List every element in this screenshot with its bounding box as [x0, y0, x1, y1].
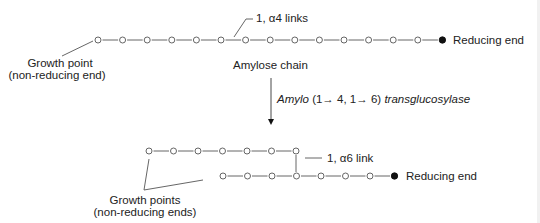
amylose-chain-label: Amylose chain: [233, 59, 308, 71]
glucose-residue-icon: [269, 173, 275, 179]
enzyme-label: Amylo (1→ 4, 1→ 6) transglucosylase: [276, 93, 470, 105]
glucose-residue-icon: [415, 37, 421, 43]
glucose-residue-icon: [144, 37, 150, 43]
glucose-residue-icon: [293, 148, 299, 154]
glucose-residue-icon: [244, 148, 250, 154]
main-chain: [220, 173, 398, 179]
glucose-residue-icon: [120, 37, 126, 43]
glucose-residue-icon: [294, 173, 300, 179]
glucose-residue-icon: [169, 37, 175, 43]
glucose-residue-icon: [245, 173, 251, 179]
branch-chain: [146, 148, 299, 154]
glucose-residue-icon: [146, 148, 152, 154]
glucose-residue-icon: [220, 148, 226, 154]
non-reducing-ends-label: (non-reducing ends): [94, 206, 197, 218]
glucose-residue-icon: [193, 37, 199, 43]
amylose-chain: [95, 37, 446, 43]
growth-points-leader: [144, 159, 203, 190]
growth-point-leader: [62, 41, 93, 56]
reducing-end-residue-icon: [439, 37, 445, 43]
glucose-residue-icon: [343, 173, 349, 179]
glucose-residue-icon: [95, 37, 101, 43]
reducing-end-residue-icon: [391, 173, 397, 179]
glycogen-branching-diagram: Growth point (non-reducing end) 1, α4 li…: [0, 0, 540, 223]
diagram-svg: Growth point (non-reducing end) 1, α4 li…: [0, 0, 540, 223]
glucose-residue-icon: [316, 37, 322, 43]
glucose-residue-icon: [171, 148, 177, 154]
arrow-head-icon: [268, 119, 274, 125]
glucose-residue-icon: [269, 148, 275, 154]
growth-point-label: Growth point: [27, 57, 93, 69]
glucose-residue-icon: [390, 37, 396, 43]
glucose-residue-icon: [243, 37, 249, 43]
glucose-residue-icon: [195, 148, 201, 154]
alpha6-link-label: 1, α6 link: [327, 152, 374, 164]
glucose-residue-icon: [218, 37, 224, 43]
glucose-residue-icon: [341, 37, 347, 43]
glucose-residue-icon: [220, 173, 226, 179]
glucose-residue-icon: [292, 37, 298, 43]
alpha4-links-label: 1, α4 links: [256, 12, 308, 24]
glucose-residue-icon: [366, 37, 372, 43]
growth-points-label: Growth points: [110, 194, 181, 206]
glucose-residue-icon: [318, 173, 324, 179]
glucose-residue-icon: [267, 37, 273, 43]
alpha4-link-leader: [234, 19, 253, 37]
reducing-end-label-bottom: Reducing end: [406, 170, 477, 182]
glucose-residue-icon: [367, 173, 373, 179]
non-reducing-end-label: (non-reducing end): [8, 69, 105, 81]
reducing-end-label-top: Reducing end: [453, 34, 524, 46]
